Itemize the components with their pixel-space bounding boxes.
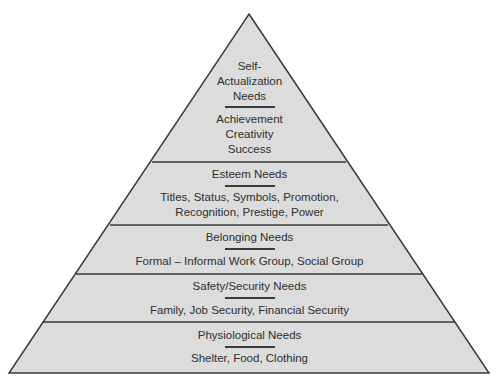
detail-line: Achievement [0, 112, 499, 127]
level-safety-title: Safety/Security Needs [0, 279, 499, 294]
title-line: Esteem Needs [0, 167, 499, 182]
detail-line: Success [0, 142, 499, 157]
title-line: Physiological Needs [0, 328, 499, 343]
level-separator [225, 185, 275, 187]
level-belonging-detail: Formal – Informal Work Group, Social Gro… [0, 254, 499, 269]
title-line: Safety/Security Needs [0, 279, 499, 294]
level-esteem-title: Esteem Needs [0, 167, 499, 182]
level-separator [225, 297, 275, 299]
title-line: Self- [0, 59, 499, 74]
level-self-actualization-title: Self- Actualization Needs [0, 59, 499, 104]
level-separator [225, 106, 275, 108]
level-safety-detail: Family, Job Security, Financial Security [0, 303, 499, 318]
level-physiological-detail: Shelter, Food, Clothing [0, 351, 499, 366]
level-esteem-detail: Titles, Status, Symbols, Promotion, Reco… [0, 190, 499, 220]
detail-line: Shelter, Food, Clothing [0, 351, 499, 366]
title-line: Actualization [0, 74, 499, 89]
detail-line: Recognition, Prestige, Power [0, 205, 499, 220]
title-line: Needs [0, 89, 499, 104]
level-belonging-title: Belonging Needs [0, 230, 499, 245]
level-self-actualization-detail: Achievement Creativity Success [0, 112, 499, 157]
detail-line: Formal – Informal Work Group, Social Gro… [0, 254, 499, 269]
title-line: Belonging Needs [0, 230, 499, 245]
detail-line: Titles, Status, Symbols, Promotion, [0, 190, 499, 205]
level-separator [225, 346, 275, 348]
detail-line: Family, Job Security, Financial Security [0, 303, 499, 318]
detail-line: Creativity [0, 127, 499, 142]
level-separator [225, 248, 275, 250]
level-physiological-title: Physiological Needs [0, 328, 499, 343]
